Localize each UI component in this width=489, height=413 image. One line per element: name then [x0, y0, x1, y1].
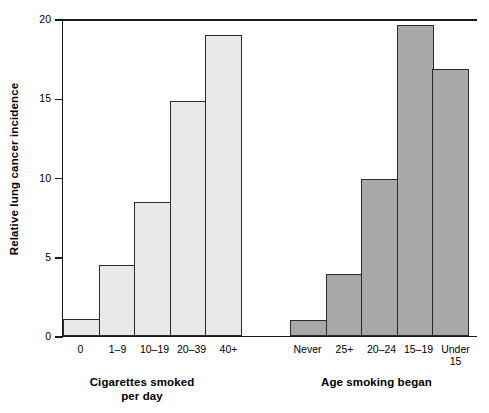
group-title-line2: per day	[121, 390, 163, 402]
bar-group-cigarettes	[63, 20, 241, 336]
bar	[205, 35, 242, 336]
category-label: 15–19	[400, 342, 437, 356]
group-title-line1: Age smoking began	[321, 376, 432, 388]
bar-group-age	[290, 20, 468, 336]
bar	[397, 25, 434, 336]
category-labels-age: Never 25+ 20–24 15–19 Under 15	[289, 342, 474, 376]
y-axis-tick-label: 5	[11, 252, 51, 263]
y-axis-title: Relative lung cancer incidence	[0, 0, 28, 337]
category-label: 1–9	[99, 342, 136, 356]
y-axis-title-label: Relative lung cancer incidence	[8, 82, 20, 255]
group-title-age: Age smoking began	[289, 375, 464, 389]
y-axis-tick-label: 15	[11, 93, 51, 104]
bar	[326, 274, 363, 336]
group-title-cigarettes: Cigarettes smoked per day	[62, 375, 222, 403]
category-labels-cigarettes: 0 1–9 10–19 20–39 40+	[62, 342, 247, 376]
bar	[170, 101, 207, 336]
y-axis-tick-label: 10	[11, 173, 51, 184]
bar-chart-figure: Relative lung cancer incidence 20151050 …	[0, 0, 489, 413]
category-label: 20–39	[173, 342, 210, 356]
category-label: 0	[62, 342, 99, 356]
y-axis-tick-label: 20	[11, 14, 51, 25]
category-label-line2: 15	[450, 355, 462, 367]
category-label: 25+	[326, 342, 363, 356]
y-axis-tick-label: 0	[11, 331, 51, 342]
bar	[99, 265, 136, 336]
group-title-line1: Cigarettes smoked	[90, 376, 195, 388]
category-label: 10–19	[136, 342, 173, 356]
bar	[361, 179, 398, 336]
bar	[134, 202, 171, 336]
plot-area	[62, 20, 477, 337]
category-label: 40+	[210, 342, 247, 356]
category-label: 20–24	[363, 342, 400, 356]
category-label: Never	[289, 342, 326, 356]
bar	[63, 319, 100, 336]
category-label-line1: Under	[441, 343, 470, 355]
bar	[290, 320, 327, 336]
bar	[432, 69, 469, 336]
category-label: Under 15	[437, 342, 474, 367]
